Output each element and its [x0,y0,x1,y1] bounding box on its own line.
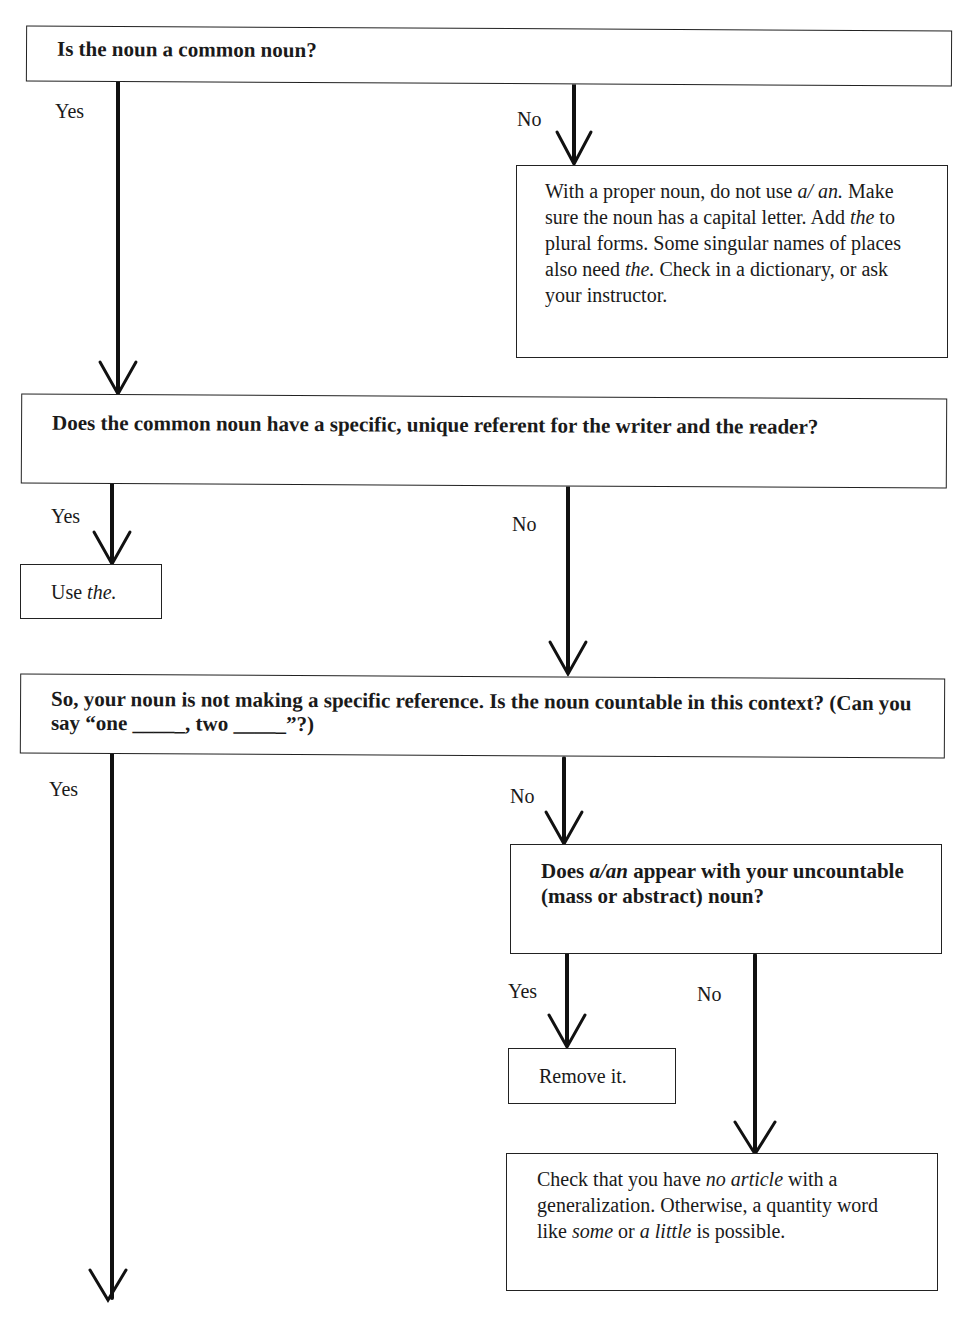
remove-it-result: Remove it. [508,1048,676,1104]
question-common-noun: Is the noun a common noun? [26,26,952,87]
edge-label-no: No [512,513,536,536]
edge-label-yes: Yes [508,980,537,1003]
edge-label-yes: Yes [55,100,84,123]
edge-label-yes: Yes [49,778,78,801]
edge-label-no: No [517,108,541,131]
question-a-an-uncountable: Does a/an appear with your uncountable (… [510,844,942,954]
edge-label-no: No [510,785,534,808]
edge-label-yes: Yes [51,505,80,528]
question-text: Is the noun a common noun? [57,37,317,62]
use-the-result: Use the. [20,564,162,619]
question-text: Does the common noun have a specific, un… [52,411,818,439]
question-countable: So, your noun is not making a specific r… [20,674,945,759]
proper-noun-advice: With a proper noun, do not use a/ an. Ma… [516,165,948,358]
generalization-advice: Check that you have no article with a ge… [506,1153,938,1291]
question-specific-referent: Does the common noun have a specific, un… [21,394,947,489]
edge-label-no: No [697,983,721,1006]
question-text: So, your noun is not making a specific r… [51,687,912,736]
